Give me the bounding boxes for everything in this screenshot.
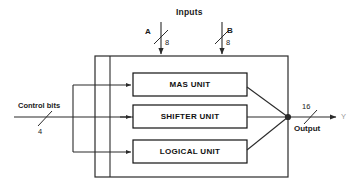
control-bits-slash-tick (38, 111, 52, 126)
unit-label-shifter: SHIFTER UNIT (133, 105, 247, 128)
input-b-width-label: 8 (226, 38, 230, 47)
input-a-label: A (145, 27, 151, 36)
unit-label-logical: LOGICAL UNIT (133, 140, 247, 163)
diagram-canvas: Inputs A 8 B 8 Control bits 4 MAS UNIT S… (0, 0, 358, 191)
diagram-title: Inputs (176, 7, 203, 17)
mas-output-line (247, 87, 288, 117)
control-bits-label: Control bits (18, 101, 60, 110)
input-a-width-label: 8 (165, 38, 169, 47)
output-width-label: 16 (302, 102, 310, 111)
logical-output-line (247, 117, 288, 150)
input-b-label: B (227, 26, 233, 35)
output-signal-label: Y (341, 112, 346, 121)
output-label: Output (294, 124, 320, 133)
control-bits-width-label: 4 (38, 127, 42, 136)
unit-label-mas: MAS UNIT (133, 73, 247, 96)
